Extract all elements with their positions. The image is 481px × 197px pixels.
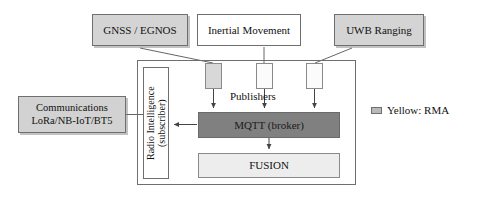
radio-intelligence-label: Radio Intelligence (subscriber) [145, 86, 167, 160]
legend: Yellow: RMA [371, 104, 449, 116]
mqtt-broker-box[interactable]: MQTT (broker) [198, 112, 340, 138]
source-box-gnss[interactable]: GNSS / EGNOS [92, 14, 188, 46]
diagram-canvas: GNSS / EGNOS Inertial Movement UWB Rangi… [0, 0, 481, 197]
publishers-label: Publishers [230, 90, 276, 102]
legend-label: Yellow: RMA [387, 104, 449, 116]
communications-box[interactable]: Communications LoRa/NB-IoT/BT5 [18, 96, 126, 133]
publisher-node-gnss[interactable] [205, 63, 222, 89]
source-box-inertial-movement[interactable]: Inertial Movement [197, 14, 301, 46]
legend-swatch-icon [371, 107, 382, 114]
fusion-box[interactable]: FUSION [198, 153, 340, 178]
radio-intelligence-box[interactable]: Radio Intelligence (subscriber) [143, 67, 169, 179]
publisher-node-inertial[interactable] [256, 63, 273, 89]
source-box-uwb-ranging[interactable]: UWB Ranging [334, 14, 424, 46]
publisher-node-uwb[interactable] [306, 63, 323, 89]
